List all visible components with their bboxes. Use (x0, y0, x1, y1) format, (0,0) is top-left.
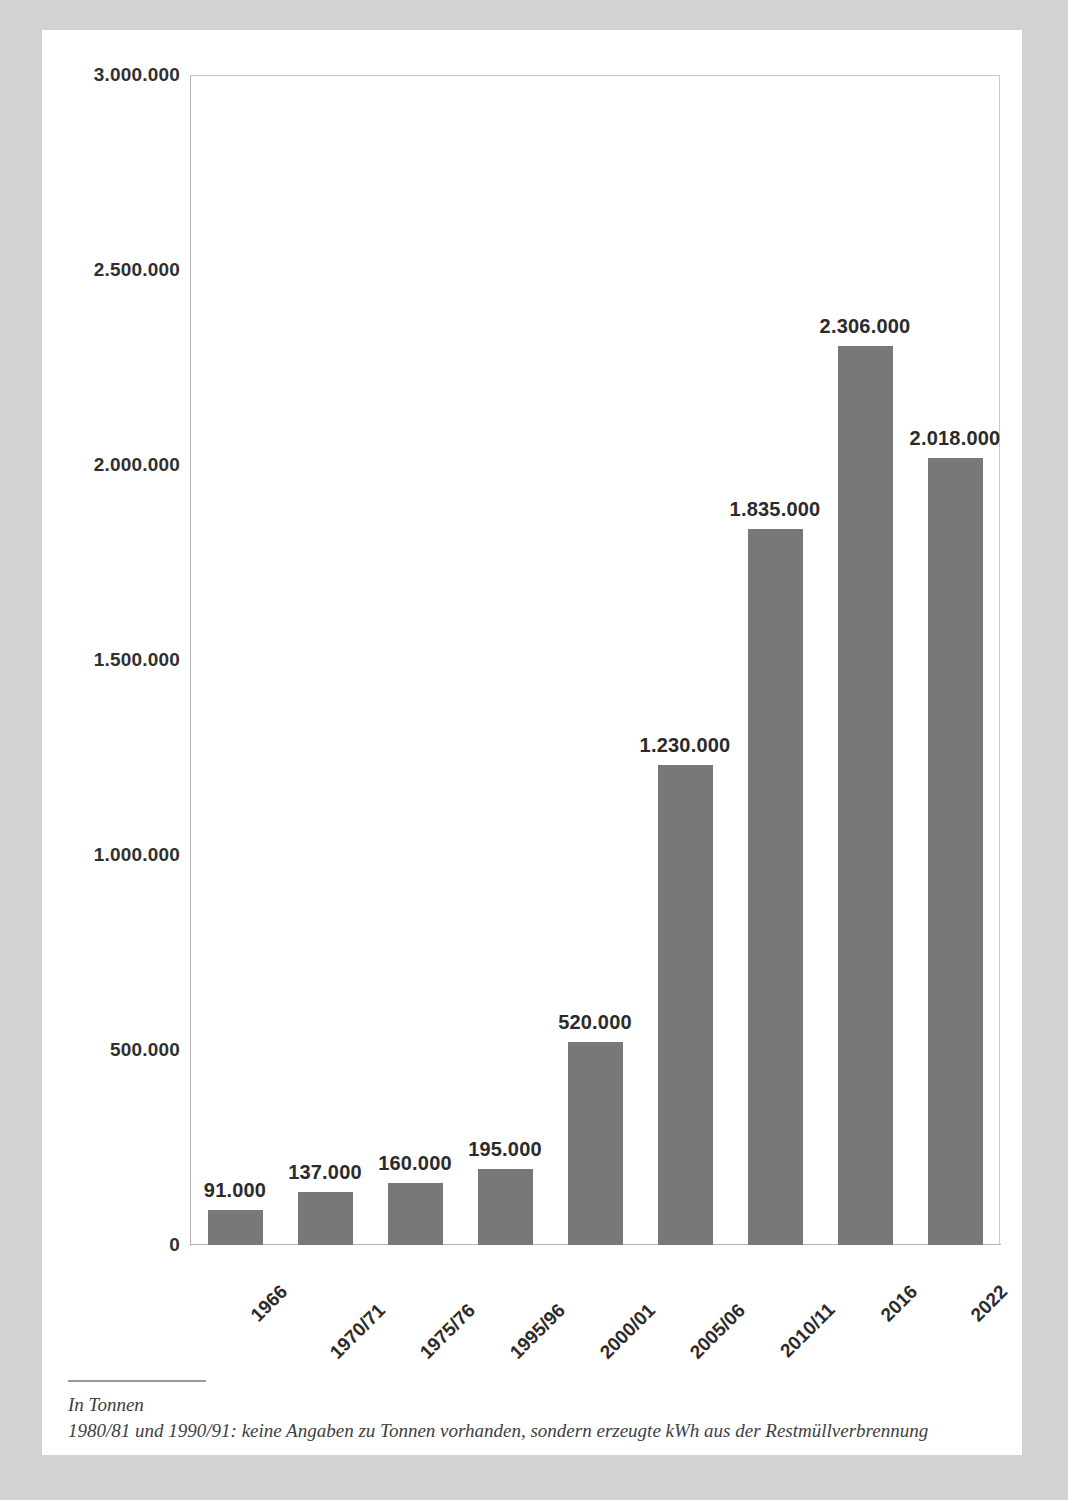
bar[interactable] (748, 529, 803, 1245)
bar-group: 160.000 (388, 75, 443, 1245)
bar-series: 91.000137.000160.000195.000520.0001.230.… (190, 75, 1000, 1245)
x-axis-tick-label-text: 2016 (877, 1281, 922, 1326)
x-axis-tick-label: 1970/71 (367, 1258, 431, 1322)
bar-group: 2.018.000 (928, 75, 983, 1245)
bar-group: 91.000 (208, 75, 263, 1245)
x-axis-tick-label-text: 2010/11 (776, 1299, 839, 1362)
bar-value-label: 137.000 (288, 1161, 362, 1184)
x-axis-tick-label-text: 1970/71 (326, 1299, 390, 1363)
x-axis-tick-label-text: 2005/06 (686, 1299, 750, 1363)
y-axis-tick-label: 1.500.000 (50, 649, 180, 671)
y-axis-tick-label: 500.000 (50, 1039, 180, 1061)
bar-group: 195.000 (478, 75, 533, 1245)
y-axis-tick-label: 2.500.000 (50, 259, 180, 281)
footnote-rule (68, 1380, 206, 1382)
bar-value-label: 91.000 (204, 1179, 266, 1202)
x-axis-tick-label: 1975/76 (457, 1258, 521, 1322)
bar[interactable] (838, 346, 893, 1245)
bar-value-label: 1.230.000 (640, 734, 731, 757)
bar-group: 520.000 (568, 75, 623, 1245)
bar-group: 2.306.000 (838, 75, 893, 1245)
bar[interactable] (928, 458, 983, 1245)
bar-value-label: 2.018.000 (910, 427, 1001, 450)
x-axis-tick-label-text: 1995/96 (506, 1299, 570, 1363)
bar[interactable] (388, 1183, 443, 1245)
bar-group: 1.835.000 (748, 75, 803, 1245)
x-axis-tick-label: 2000/01 (637, 1258, 701, 1322)
bar[interactable] (478, 1169, 533, 1245)
x-axis-tick-label: 1966 (269, 1258, 314, 1303)
x-axis-tick-label-text: 2000/01 (596, 1299, 660, 1363)
bar-value-label: 2.306.000 (820, 315, 911, 338)
bar-value-label: 1.835.000 (730, 498, 821, 521)
bar[interactable] (658, 765, 713, 1245)
x-axis-tick-label: 2005/06 (727, 1258, 791, 1322)
x-axis-tick-label: 2016 (899, 1258, 944, 1303)
footnote-line-1: In Tonnen (68, 1392, 1008, 1418)
bar-value-label: 520.000 (558, 1011, 632, 1034)
y-axis-tick-labels: 0500.0001.000.0001.500.0002.000.0002.500… (42, 30, 180, 1455)
y-axis-tick-label: 0 (50, 1234, 180, 1256)
x-axis-tick-label: 2022 (989, 1258, 1034, 1303)
chart-page: 0500.0001.000.0001.500.0002.000.0002.500… (42, 30, 1022, 1455)
y-axis-tick-label: 3.000.000 (50, 64, 180, 86)
y-axis-tick-label: 2.000.000 (50, 454, 180, 476)
bar[interactable] (568, 1042, 623, 1245)
x-axis-tick-label-text: 1966 (247, 1281, 292, 1326)
x-axis-tick-label-text: 2022 (967, 1281, 1012, 1326)
footnote-line-2: 1980/81 und 1990/91: keine Angaben zu To… (68, 1418, 1008, 1444)
y-axis-tick-label: 1.000.000 (50, 844, 180, 866)
bar-value-label: 195.000 (468, 1138, 542, 1161)
bar-group: 137.000 (298, 75, 353, 1245)
x-axis-tick-labels: 19661970/711975/761995/962000/012005/062… (190, 1248, 1000, 1368)
x-axis-tick-label-text: 1975/76 (416, 1299, 480, 1363)
bar-group: 1.230.000 (658, 75, 713, 1245)
x-axis-tick-label: 1995/96 (547, 1258, 611, 1322)
x-axis-tick-label: 2010/11 (817, 1258, 880, 1321)
bar-value-label: 160.000 (378, 1152, 452, 1175)
bar[interactable] (298, 1192, 353, 1245)
footnote-block: In Tonnen 1980/81 und 1990/91: keine Ang… (68, 1380, 1008, 1444)
bar[interactable] (208, 1210, 263, 1245)
